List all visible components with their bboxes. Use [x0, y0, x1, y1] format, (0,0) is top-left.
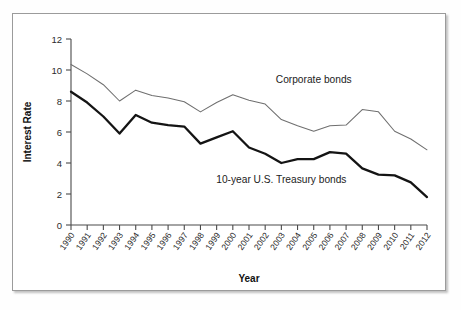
x-tick-label: 1997: [171, 230, 190, 252]
x-tick-label: 1992: [90, 230, 109, 252]
x-axis-title: Year: [238, 273, 259, 284]
series-annotation-label: 10-year U.S. Treasury bonds: [216, 174, 346, 185]
x-tick-label: 2003: [268, 230, 287, 252]
x-tick-label: 2005: [300, 230, 319, 252]
x-tick-label: 2000: [219, 230, 238, 252]
x-tick-label: 2001: [235, 230, 254, 252]
x-tick-label: 2012: [413, 230, 432, 252]
y-tick-label: 12: [51, 34, 62, 45]
x-tick-label: 1998: [187, 230, 206, 252]
y-tick-label: 4: [57, 158, 62, 169]
y-tick-label: 10: [51, 65, 62, 76]
y-tick-group: 024681012: [51, 34, 71, 231]
x-tick-label: 2008: [349, 230, 368, 252]
x-tick-group: 1990199119921993199419951996199719981999…: [57, 225, 432, 252]
x-tick-label: 1999: [203, 230, 222, 252]
figure-root: 024681012 199019911992199319941995199619…: [0, 0, 461, 310]
y-axis-title: Interest Rate: [22, 101, 33, 162]
x-tick-label: 1996: [155, 230, 174, 252]
chart-frame: 024681012 199019911992199319941995199619…: [12, 13, 446, 291]
x-tick-label: 2006: [316, 230, 335, 252]
x-tick-label: 2009: [365, 230, 384, 252]
y-tick-label: 6: [57, 127, 62, 138]
x-tick-label: 2004: [284, 230, 303, 252]
x-tick-label: 1991: [74, 230, 93, 252]
x-tick-label: 2010: [381, 230, 400, 252]
axes-group: [71, 39, 427, 225]
x-tick-label: 1990: [57, 230, 76, 252]
series-line-corporate-bonds: [71, 65, 427, 150]
series-annotation-group: Corporate bonds10-year U.S. Treasury bon…: [216, 74, 351, 185]
y-tick-label: 8: [57, 96, 62, 107]
x-tick-label: 1993: [106, 230, 125, 252]
y-tick-label: 0: [57, 220, 62, 231]
x-tick-label: 1995: [138, 230, 157, 252]
x-tick-label: 1994: [122, 230, 141, 252]
x-tick-label: 2002: [252, 230, 271, 252]
series-annotation-label: Corporate bonds: [276, 74, 352, 85]
y-tick-label: 2: [57, 189, 62, 200]
x-tick-label: 2007: [333, 230, 352, 252]
interest-rate-line-chart: 024681012 199019911992199319941995199619…: [13, 14, 444, 289]
x-tick-label: 2011: [398, 230, 417, 251]
